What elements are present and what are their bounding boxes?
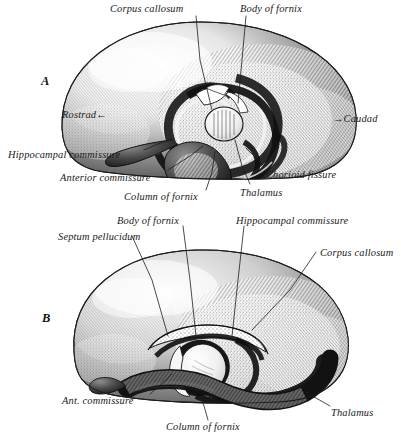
- label-column-of-fornix-b: Column of fornix: [166, 422, 240, 432]
- figure-letter-a: A: [41, 74, 49, 89]
- label-thalamus-b: Thalamus: [331, 408, 373, 418]
- label-septum-pellucidum-b: Septum pellucidum: [58, 232, 140, 242]
- label-body-of-fornix-a: Body of fornix: [240, 4, 302, 14]
- label-hippocampal-commissure-a: Hippocampal commissure: [8, 150, 120, 160]
- figure-letter-b: B: [42, 311, 50, 326]
- label-caudad-a: →Caudad: [333, 114, 378, 124]
- label-hippocampal-commissure-b: Hippocampal commissure: [236, 216, 348, 226]
- label-body-of-fornix-b: Body of fornix: [117, 216, 179, 226]
- label-column-of-fornix-a: Column of fornix: [124, 192, 198, 202]
- anatomical-plate: A B Corpus callosum Body of fornix Rostr…: [0, 0, 401, 435]
- label-thalamus-a: Thalamus: [240, 188, 282, 198]
- label-rostrad-a: Rostrad←: [62, 110, 107, 120]
- thalamus-cut-surface-a: [205, 107, 243, 141]
- label-corpus-callosum-b: Corpus callosum: [320, 248, 393, 258]
- label-corpus-callosum-a: Corpus callosum: [110, 4, 183, 14]
- label-anterior-commissure-a: Anterior commissure: [60, 173, 150, 183]
- label-ant-commissure-b: Ant. commissure: [62, 396, 134, 406]
- label-chorioid-fissure-a: Chorioid fissure: [266, 170, 336, 180]
